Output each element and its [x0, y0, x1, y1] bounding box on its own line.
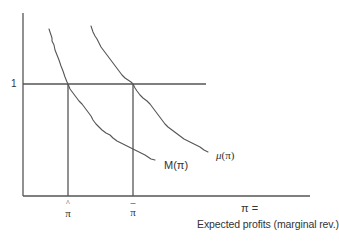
mu-curve: [91, 26, 208, 152]
y-tick-label-one: 1: [11, 79, 17, 89]
pi-hat-tick-label: ^π: [61, 201, 75, 219]
mu-argument: (π): [222, 149, 235, 161]
pi-bar-tick-label: –π: [126, 201, 140, 218]
m-curve-label: M(π): [164, 160, 188, 171]
x-axis-description: Expected profits (marginal rev.): [197, 219, 339, 230]
mu-curve-label: μ(π): [216, 150, 234, 161]
pi-bar-symbol: π: [130, 206, 136, 218]
x-axis-variable-label: π =: [241, 203, 258, 214]
pi-hat-symbol: π: [65, 207, 71, 219]
